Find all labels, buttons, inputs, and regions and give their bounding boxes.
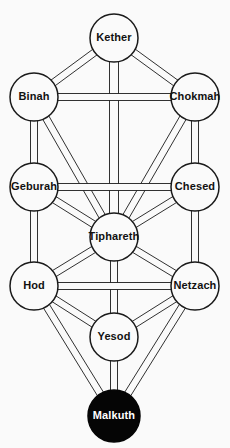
sephira-binah[interactable]: Binah	[10, 73, 58, 121]
sephira-tiphareth[interactable]: Tiphareth	[89, 213, 140, 261]
path-kether-chokmah	[128, 47, 181, 88]
path-tiphareth-hod	[49, 244, 99, 278]
sephira-label-hod: Hod	[23, 279, 45, 291]
sephira-label-malkuth: Malkuth	[93, 409, 135, 421]
path-geburah-hod	[31, 207, 38, 266]
path-binah-geburah	[31, 117, 38, 167]
path-kether-binah	[48, 47, 100, 88]
path-hod-netzach	[54, 283, 175, 290]
sephira-label-yesod: Yesod	[98, 330, 131, 342]
sephira-yesod[interactable]: Yesod	[90, 313, 138, 361]
sephira-geburah[interactable]: Geburah	[10, 163, 58, 211]
path-binah-chokmah	[54, 94, 175, 101]
sephira-chokmah[interactable]: Chokmah	[170, 73, 221, 121]
path-yesod-malkuth	[111, 357, 118, 394]
tree-of-life-canvas: KetherBinahChokmahGeburahChesedTiphareth…	[0, 0, 230, 448]
sephira-kether[interactable]: Kether	[90, 14, 138, 62]
sephira-hod[interactable]: Hod	[10, 262, 58, 310]
sephira-label-kether: Kether	[96, 31, 132, 43]
sephira-label-netzach: Netzach	[174, 279, 217, 291]
tree-of-life-diagram: KetherBinahChokmahGeburahChesedTiphareth…	[0, 0, 230, 448]
sephira-label-geburah: Geburah	[11, 180, 57, 192]
path-chokmah-tiphareth	[121, 113, 188, 222]
path-chokmah-chesed	[192, 117, 199, 167]
path-chesed-netzach	[192, 207, 199, 266]
sephira-label-chokmah: Chokmah	[170, 90, 221, 102]
path-tiphareth-netzach	[129, 244, 179, 278]
sephira-netzach[interactable]: Netzach	[171, 262, 219, 310]
sephira-label-chesed: Chesed	[175, 180, 215, 192]
sephira-malkuth[interactable]: Malkuth	[88, 390, 140, 442]
path-geburah-chesed	[54, 184, 175, 191]
sephira-label-binah: Binah	[18, 90, 49, 102]
path-kether-tiphareth	[110, 58, 119, 217]
sephira-label-tiphareth: Tiphareth	[89, 230, 140, 242]
sephira-chesed[interactable]: Chesed	[171, 163, 219, 211]
